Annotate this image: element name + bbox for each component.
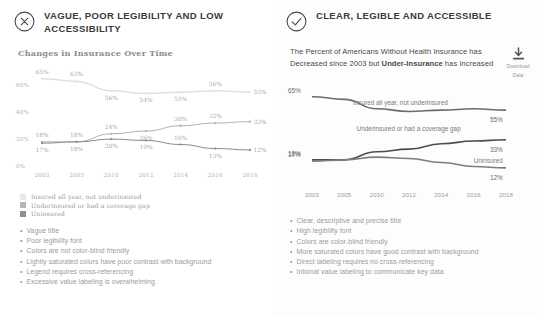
legend-item: Insured all year, not underinsured [20,193,262,200]
data-point [214,147,216,149]
data-value-label: 18% [70,132,83,138]
data-value-label: 55% [174,96,187,102]
y-axis-tick: 20% [16,136,29,142]
x-axis-tick: 2018 [499,191,513,198]
bullet-text: Excessive value labeling is overwhelming [26,277,154,287]
bad-header: VAGUE, POOR LEGIBILITY AND LOW ACCESSIBI… [14,10,262,35]
list-item: •Legend requires cross-referencing [20,267,262,277]
data-point [76,80,78,82]
data-value-label: 30% [174,116,187,122]
data-point [214,90,216,92]
data-point [110,90,112,92]
x-axis-tick: 2003 [34,172,49,178]
bad-chart-title: Changes in Insurance Over Time [18,48,262,58]
good-chart-title: The Percent of Americans Without Health … [290,46,495,69]
data-value-label: 54% [139,97,152,103]
bullet-text: Clear, descriptive and precise title [296,216,401,226]
data-point [76,141,78,143]
list-item: •Intional value labeling to communicate … [290,267,535,277]
list-item: •High legibility font [290,226,535,236]
list-item: •Clear, descriptive and precise title [290,216,535,226]
series-end-value: 33% [490,145,503,152]
x-axis-tick: 2003 [305,191,319,198]
comparison-layout: VAGUE, POOR LEGIBILITY AND LOW ACCESSIBI… [0,0,543,315]
data-value-label: 32% [209,113,222,119]
download-icon[interactable] [501,47,535,61]
download-label-line2[interactable]: Data [501,72,535,79]
download-label-line1[interactable]: Download [501,63,535,70]
good-example-panel: CLEAR, LEGIBLE AND ACCESSIBLE The Percen… [272,0,543,315]
download-data-button[interactable]: Download Data [501,47,535,78]
bullet-text: High legibility font [296,226,351,236]
bullet-text: Colors are not color-blind friendly [26,246,129,256]
bullet-text: Poor legibility font [26,236,81,246]
x-axis-tick: 2016 [467,191,481,198]
bad-bullet-list: •Vague title •Poor legibility font •Colo… [20,226,262,287]
bullet-text: Vague title [26,226,59,236]
data-point [249,91,251,93]
data-point [41,142,43,144]
legend-item: Underinsured or had a coverage gap [20,202,262,209]
bullet-dot: • [290,226,292,236]
bullet-dot: • [290,247,292,257]
list-item: •Direct labeling requires no cross-refer… [290,257,535,267]
data-point [145,130,147,132]
data-value-label: 12% [253,147,266,153]
bullet-text: More saturated colors have good contrast… [296,247,478,257]
x-axis-tick: 2005 [337,191,351,198]
y-axis-tick: 40% [16,109,29,115]
x-axis-tick: 2018 [242,172,257,178]
bullet-dot: • [20,277,22,287]
good-bullet-list: •Clear, descriptive and precise title •H… [290,216,535,277]
bullet-dot: • [20,257,22,267]
list-item: •Poor legibility font [20,236,262,246]
series-end-value: 12% [490,174,503,181]
data-point [110,138,112,140]
list-item: •Lightly saturated colors have poor cont… [20,257,262,267]
bullet-text: Direct labeling requires no cross-refere… [296,257,433,267]
data-value-label: 65% [35,69,48,75]
series-start-value: 17% [288,151,301,158]
bullet-text: Lightly saturated colors have poor contr… [26,257,211,267]
legend-swatch [20,194,26,200]
y-axis-tick: 0% [16,163,25,169]
x-axis-tick: 2012 [138,172,153,178]
x-axis-tick: 2016 [208,172,223,178]
x-axis-tick: 2014 [434,191,448,198]
series-direct-label: Underinsured or had a coverage gap [357,125,461,132]
data-value-label: 63% [70,71,83,77]
bullet-text: Legend requires cross-referencing [26,267,133,277]
data-point [41,78,43,80]
legend-swatch [20,202,26,208]
bullet-dot: • [290,267,292,277]
data-point [249,149,251,151]
list-item: •Excessive value labeling is overwhelmin… [20,277,262,287]
data-value-label: 56% [105,95,118,101]
data-point [180,91,182,93]
list-item: •More saturated colors have good contras… [290,247,535,257]
data-point [249,121,251,123]
good-chart: 65%18%17%55%33%12%Insured all year, not … [288,82,540,204]
data-value-label: 13% [209,153,222,159]
data-value-label: 56% [209,81,222,87]
bad-chart-svg [16,64,268,186]
x-axis-tick: 2010 [370,191,384,198]
data-point [145,92,147,94]
x-axis-tick: 2010 [104,172,119,178]
good-title-part2: has Increased [443,59,494,68]
series-start-value: 65% [288,86,301,93]
data-point [180,143,182,145]
bullet-text: Colors are color-blind friendly [296,237,387,247]
list-item: •Colors are not color-blind friendly [20,246,262,256]
x-axis-tick: 2012 [402,191,416,198]
data-value-label: 24% [105,124,118,130]
legend-label: Uninsured [31,210,65,217]
bullet-dot: • [290,257,292,267]
x-axis-tick: 2005 [69,172,84,178]
data-value-label: 18% [35,132,48,138]
good-header: CLEAR, LEGIBLE AND ACCESSIBLE [286,10,535,32]
data-value-label: 17% [35,147,48,153]
data-value-label: 18% [70,146,83,152]
data-value-label: 20% [105,143,118,149]
data-point [180,125,182,127]
